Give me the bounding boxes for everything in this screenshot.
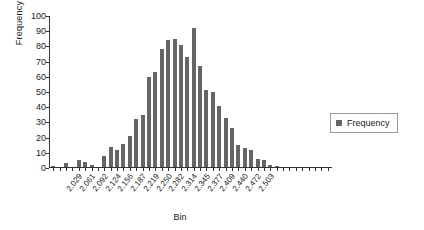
x-tick-mark (60, 168, 61, 171)
x-tick-mark (213, 168, 214, 171)
x-tick-mark (162, 168, 163, 171)
x-tick-mark (85, 168, 86, 171)
x-tick-mark (283, 168, 284, 171)
x-tick-mark (194, 168, 195, 171)
x-tick-mark (200, 168, 201, 171)
x-axis-tick-labels: 2.0292.0612.0922.1242.1562.1872.2192.250… (0, 172, 340, 212)
y-tick-label: 10 (20, 148, 46, 158)
bar (204, 90, 208, 168)
histogram-chart: Frequency 0102030405060708090100 2.0292.… (0, 0, 424, 230)
x-tick-mark (270, 168, 271, 171)
x-tick-mark (168, 168, 169, 171)
x-tick-mark (175, 168, 176, 171)
x-tick-mark (123, 168, 124, 171)
y-tick-mark (46, 62, 49, 63)
x-tick-mark (321, 168, 322, 171)
legend-swatch-frequency (336, 120, 342, 126)
y-tick-label: 80 (20, 41, 46, 51)
x-tick-mark (232, 168, 233, 171)
x-tick-mark (155, 168, 156, 171)
x-tick-mark (181, 168, 182, 171)
x-tick-mark (289, 168, 290, 171)
y-tick-label: 70 (20, 57, 46, 67)
x-tick-mark (296, 168, 297, 171)
y-tick-label: 60 (20, 72, 46, 82)
y-tick-mark (46, 46, 49, 47)
y-axis-tick-labels: 0102030405060708090100 (20, 11, 46, 173)
bar (173, 39, 177, 168)
x-tick-mark (251, 168, 252, 171)
x-tick-mark (302, 168, 303, 171)
y-tick-mark (46, 31, 49, 32)
x-tick-mark (187, 168, 188, 171)
x-tick-mark (245, 168, 246, 171)
y-tick-label: 100 (20, 11, 46, 21)
plot-area (50, 16, 331, 168)
x-tick-mark (66, 168, 67, 171)
y-tick-label: 50 (20, 87, 46, 97)
bar (160, 49, 164, 168)
bar (249, 150, 253, 168)
bar (224, 118, 228, 168)
bar (153, 72, 157, 168)
x-axis-title: Bin (150, 212, 210, 222)
x-tick-mark (104, 168, 105, 171)
bar (230, 128, 234, 168)
x-tick-mark (328, 168, 329, 171)
x-tick-mark (98, 168, 99, 171)
y-tick-mark (46, 16, 49, 17)
legend-label-frequency: Frequency (347, 118, 390, 128)
bar (109, 147, 113, 168)
y-tick-label: 40 (20, 102, 46, 112)
x-tick-mark (309, 168, 310, 171)
bar (128, 136, 132, 168)
x-tick-mark (226, 168, 227, 171)
y-tick-mark (46, 122, 49, 123)
y-tick-label: 20 (20, 133, 46, 143)
bar (166, 40, 170, 168)
x-tick-mark (219, 168, 220, 171)
bar (211, 92, 215, 168)
x-tick-mark (143, 168, 144, 171)
y-tick-label: 30 (20, 117, 46, 127)
y-tick-mark (46, 168, 49, 169)
y-tick-mark (46, 153, 49, 154)
x-tick-mark (277, 168, 278, 171)
y-tick-mark (46, 92, 49, 93)
y-tick-label: 90 (20, 26, 46, 36)
x-tick-mark (238, 168, 239, 171)
y-tick-mark (46, 77, 49, 78)
y-tick-mark (46, 107, 49, 108)
bar (243, 148, 247, 168)
x-tick-mark (315, 168, 316, 171)
x-tick-mark (149, 168, 150, 171)
bar (179, 45, 183, 168)
x-tick-mark (92, 168, 93, 171)
bar (192, 28, 196, 168)
bar (198, 66, 202, 168)
x-tick-mark (264, 168, 265, 171)
bar (141, 115, 145, 168)
x-tick-mark (72, 168, 73, 171)
x-tick-mark (136, 168, 137, 171)
bar (236, 145, 240, 168)
bar (217, 106, 221, 168)
x-tick-mark (111, 168, 112, 171)
x-tick-mark (117, 168, 118, 171)
x-tick-mark (206, 168, 207, 171)
chart-legend: Frequency (330, 113, 398, 133)
bar (115, 150, 119, 168)
bar (147, 77, 151, 168)
x-tick-mark (53, 168, 54, 171)
x-tick-mark (130, 168, 131, 171)
x-tick-mark (258, 168, 259, 171)
bar (121, 144, 125, 168)
bar (185, 57, 189, 168)
bar (134, 119, 138, 168)
y-tick-mark (46, 138, 49, 139)
x-tick-mark (79, 168, 80, 171)
